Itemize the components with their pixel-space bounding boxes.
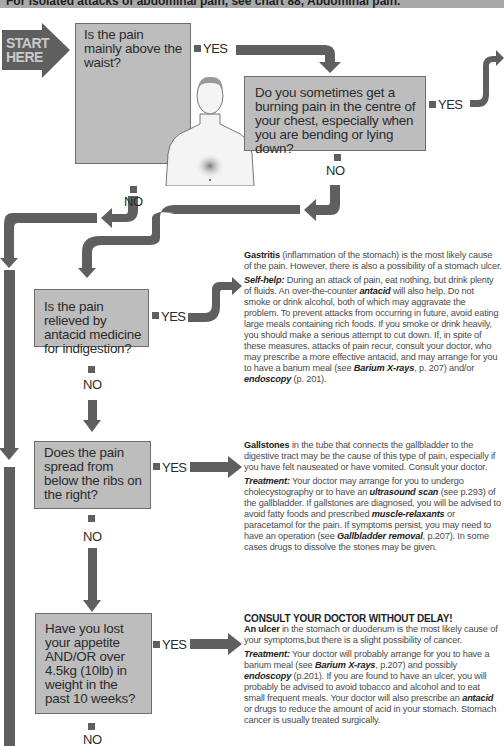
question-box-2: Do you sometimes get a burning pain in t… bbox=[244, 76, 426, 151]
question-text-5: Have you lost your appetite AND/OR over … bbox=[45, 622, 141, 706]
gallstones-intro: Gallstones in the tube that connects the… bbox=[244, 440, 502, 473]
selfhelp-text-3: , p. 207) and/or bbox=[414, 363, 474, 373]
barium-xrays-ref: Barium X-rays bbox=[315, 660, 375, 670]
question-text-4: Does the pain spread from below the ribs… bbox=[44, 446, 144, 502]
yes-label-q4: YES bbox=[162, 460, 187, 475]
question-box-5: Have you lost your appetite AND/OR over … bbox=[35, 613, 152, 714]
barium-xrays-ref: Barium X-rays bbox=[354, 363, 414, 373]
yes-label-q2: YES bbox=[438, 97, 463, 112]
no-label-q3: NO bbox=[83, 377, 102, 392]
start-line-2: HERE bbox=[6, 50, 49, 64]
endoscopy-ref: endoscopy bbox=[244, 374, 291, 384]
antacid-ref: antacid bbox=[359, 286, 390, 296]
yes-label-q3: YES bbox=[161, 309, 186, 324]
gastritis-intro: Gastritis (inflammation of the stomach) … bbox=[244, 250, 502, 272]
answer-gallstones: Gallstones in the tube that connects the… bbox=[244, 440, 502, 556]
gastritis-title: Gastritis bbox=[244, 250, 280, 260]
consult-doctor-warning: CONSULT YOUR DOCTOR WITHOUT DELAY! bbox=[244, 613, 502, 624]
gastritis-intro-text: (inflammation of the stomach) is the mos… bbox=[244, 250, 502, 271]
start-line-1: START bbox=[6, 36, 49, 50]
ultrasound-ref: ultrasound scan bbox=[370, 487, 439, 497]
ulcer-intro: An ulcer in the stomach or duodenum is t… bbox=[244, 624, 502, 646]
start-here-label: START HERE bbox=[6, 36, 49, 64]
answer-ulcer: CONSULT YOUR DOCTOR WITHOUT DELAY! An ul… bbox=[244, 613, 502, 729]
ulcer-intro-text: in the stomach or duodenum is the most l… bbox=[244, 624, 498, 645]
no-label-q2: NO bbox=[326, 163, 345, 178]
yes-label-q1: YES bbox=[203, 41, 228, 56]
start-here-marker: START HERE bbox=[0, 23, 72, 81]
question-text-3: Is the pain relieved by antacid medicine… bbox=[44, 300, 142, 356]
question-box-3: Is the pain relieved by antacid medicine… bbox=[34, 289, 149, 347]
question-text-1: Is the pain mainly above the waist? bbox=[84, 28, 184, 70]
ulcer-t2: , p.207) and possibly bbox=[375, 660, 457, 670]
ulcer-treatment: Treatment: Your doctor will probably arr… bbox=[244, 649, 502, 726]
ulcer-title: An ulcer bbox=[244, 624, 280, 634]
gastritis-selfhelp: Self-help: During an attack of pain, eat… bbox=[244, 275, 502, 385]
yes-label-q5: YES bbox=[162, 637, 187, 652]
selfhelp-text-2: will also help. Do not smoke or drink al… bbox=[244, 286, 498, 373]
no-label-q4: NO bbox=[83, 529, 102, 544]
selfhelp-text-4: (p. 201). bbox=[291, 374, 326, 384]
question-box-1: Is the pain mainly above the waist? bbox=[75, 23, 191, 164]
question-text-2: Do you sometimes get a burning pain in t… bbox=[255, 86, 419, 156]
question-box-4: Does the pain spread from below the ribs… bbox=[34, 441, 151, 509]
gallbladder-removal-ref: Gallbladder removal bbox=[337, 531, 423, 541]
ulcer-t4: or drugs to reduce the amount of acid in… bbox=[244, 704, 496, 725]
gallstones-treatment: Treatment: Your doctor may arrange for y… bbox=[244, 476, 502, 553]
endoscopy-ref: endoscopy bbox=[244, 671, 291, 681]
antacid-ref: antacid bbox=[462, 693, 493, 703]
answer-gastritis: Gastritis (inflammation of the stomach) … bbox=[244, 250, 502, 388]
selfhelp-label: Self-help: bbox=[244, 275, 284, 285]
muscle-relaxants-ref: muscle-relaxants bbox=[372, 509, 445, 519]
no-label-q5: NO bbox=[83, 732, 102, 746]
no-label-q1: NO bbox=[124, 194, 143, 209]
gallstones-title: Gallstones bbox=[244, 440, 289, 450]
treatment-label: Treatment: bbox=[244, 476, 290, 486]
treatment-label: Treatment: bbox=[244, 649, 290, 659]
